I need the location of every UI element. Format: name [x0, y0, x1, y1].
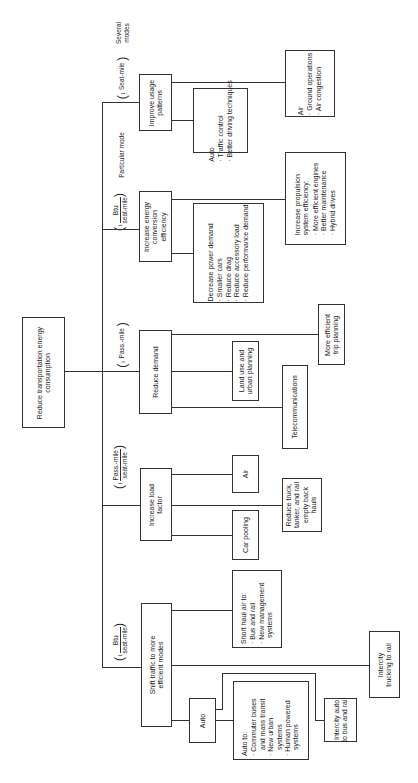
bullet: Reduce accessory load — [233, 205, 241, 302]
node-telecom: Telecommunications — [282, 365, 308, 449]
node-title: Auto to: — [241, 686, 249, 756]
bullet: Hybrid drives — [329, 162, 337, 235]
node-label: Increase load factor — [148, 475, 165, 535]
bullet: New urban systems — [267, 700, 284, 756]
frac-den: seat-mile — [121, 449, 129, 481]
node-content: Short haul air to: Bus and rail New mana… — [240, 574, 275, 644]
connector — [172, 253, 193, 254]
node-reduce-demand: Reduce demand — [139, 330, 172, 414]
node-label: More efficient trip planning — [323, 309, 340, 361]
connector — [102, 229, 139, 230]
node-label: Intercity auto to bus and rail — [332, 698, 349, 742]
node-short-haul-air: Short haul air to: Bus and rail New mana… — [232, 570, 282, 648]
connector — [172, 535, 232, 536]
connector — [102, 667, 141, 668]
node-shift-traffic: Shift traffic to more efficient modes — [141, 603, 172, 727]
frac-num: Btu — [112, 627, 121, 653]
metric-text: Pass.-mile — [118, 328, 125, 358]
node-label: Increase energy conversion efficiency — [143, 196, 168, 258]
node-title: Increase propulsion system efficiency: — [294, 173, 311, 235]
metric-particular-mode: Particular mode — [118, 132, 126, 178]
bullet: Ground operations — [306, 52, 314, 114]
node-car-pooling: Car pooling — [232, 510, 259, 560]
bullet: Air congestion — [315, 52, 323, 114]
node-title: Decrease power demand — [207, 205, 215, 302]
frac-num: Pass.-mile — [112, 449, 121, 481]
bullet: Smaller cars — [216, 205, 224, 302]
connector — [315, 673, 316, 721]
connector — [216, 720, 233, 721]
node-auto-usage: Auto Traffic controlBetter driving techn… — [193, 88, 248, 153]
connector — [102, 505, 140, 506]
frac-num: Btu — [112, 197, 121, 223]
node-air-usage: Air Ground operationsAir congestion — [285, 50, 335, 117]
node-title: Short haul air to: — [240, 574, 248, 644]
bullet: Commuter buses and mass transit — [250, 686, 267, 756]
node-intercity-auto: Intercity auto to bus and rail — [324, 698, 357, 742]
connector — [172, 199, 285, 200]
connector — [315, 720, 324, 721]
node-land-use: Land use and urban planning — [232, 341, 259, 401]
metric-several-modes: Several modes — [115, 22, 130, 44]
node-label: Reduce demand — [151, 346, 159, 397]
bullet: Traffic control — [217, 80, 225, 161]
connector — [172, 505, 282, 506]
metric-btu-seat-mile: (↓Btuseat-mile) — [112, 193, 128, 231]
connector — [172, 665, 369, 666]
node-decrease-power: Decrease power demand Smaller cars Reduc… — [193, 203, 264, 303]
metric-text: Seat-mile — [118, 63, 125, 90]
node-energy-conversion: Increase energy conversion efficiency — [139, 191, 172, 262]
metric-seat-mile: (↓ Seat-mile ) — [118, 57, 126, 100]
node-trip-planning: More efficient trip planning — [318, 304, 345, 365]
bullet: More efficient engines — [312, 162, 320, 235]
bullet: Bus and rail — [249, 574, 257, 644]
bullet: Human powered systems — [284, 686, 301, 756]
node-label: Car pooling — [241, 517, 249, 553]
bullet: Better maintenance — [320, 162, 328, 235]
node-content: Auto to: Commuter buses and mass transit… — [241, 686, 301, 756]
connector — [102, 102, 139, 103]
node-label: Land use and urban planning — [237, 345, 254, 397]
node-label: Telecommunications — [291, 375, 299, 438]
metric-pass-mile: (↓ Pass.-mile ) — [118, 322, 126, 367]
node-content: Decrease power demand Smaller cars Reduc… — [207, 205, 250, 302]
node-propulsion: Increase propulsion system efficiency: M… — [285, 152, 346, 245]
connector — [172, 120, 193, 121]
node-auto-shift: Auto — [189, 698, 216, 743]
bullet: Better driving techniques — [225, 80, 233, 161]
node-improve-usage: Improve usage patterns — [139, 74, 172, 131]
node-empty-back-hauls: Reduce truck, tanker, and rail empty bac… — [282, 478, 322, 532]
connector — [222, 673, 315, 674]
node-label: Auto — [198, 713, 206, 727]
connector — [172, 407, 282, 408]
connector — [172, 334, 318, 335]
connector — [172, 610, 232, 611]
connector — [172, 474, 232, 475]
node-load-factor: Increase load factor — [140, 468, 172, 541]
node-intercity-trucking: Intercity trucking to rail — [369, 631, 400, 698]
bullet: Reduce drag — [225, 205, 233, 302]
frac-den: seat-mile — [121, 197, 129, 223]
bullet: Reduce performance demand — [242, 205, 250, 302]
node-content: Air Ground operationsAir congestion — [297, 52, 323, 114]
node-label: Shift traffic to more efficient modes — [148, 634, 165, 696]
connector — [172, 371, 232, 372]
node-air-load: Air — [232, 455, 259, 493]
node-label: Improve usage patterns — [147, 77, 164, 129]
node-label: Reduce truck, tanker, and rail empty bac… — [285, 481, 319, 529]
metric-btu-seat-mile-2: (↓Btuseat-mile) — [112, 623, 128, 661]
node-label: Intercity trucking to rail — [376, 641, 393, 689]
metric-pass-seat-mile: (↑Pass.-mileseat-mile) — [112, 445, 128, 489]
node-title: Auto — [207, 80, 215, 161]
node-auto-to: Auto to: Commuter buses and mass transit… — [233, 681, 309, 760]
root-label: Reduce transportation energy consumption — [35, 319, 52, 427]
node-content: Increase propulsion system efficiency: M… — [294, 162, 337, 235]
bullet: New management systems — [258, 574, 275, 644]
node-title: Air — [297, 52, 305, 114]
frac-den: seat-mile — [121, 627, 129, 653]
node-content: Auto Traffic controlBetter driving techn… — [207, 80, 233, 161]
connector — [222, 673, 223, 710]
trunk-line — [102, 102, 103, 668]
node-label: Air — [241, 470, 249, 479]
root-node: Reduce transportation energy consumption — [22, 317, 65, 428]
